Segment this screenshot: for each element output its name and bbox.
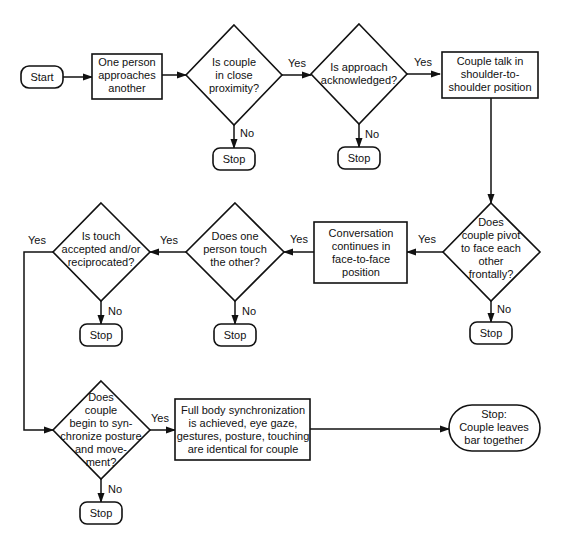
node-pivot-line1: Does <box>478 216 504 228</box>
node-end-line1: Stop: <box>481 408 507 420</box>
node-shoulder-line1: Couple talk in <box>457 55 524 67</box>
node-synchronize-line4: chronize posture <box>60 430 141 442</box>
node-face-line3: face-to-face <box>332 253 390 265</box>
node-stop2: Stop <box>338 147 380 169</box>
node-accepted-line3: reciprocated? <box>68 256 135 268</box>
label-no-pivot: No <box>497 303 511 315</box>
node-touch-line1: Does one <box>211 230 258 242</box>
label-no-accepted: No <box>108 305 122 317</box>
node-pivot: Does couple pivot to face each other fro… <box>443 203 540 301</box>
node-proximity: Is couple in close proximity? <box>186 25 282 125</box>
node-start: Start <box>21 66 63 88</box>
node-stop4-text: Stop <box>224 329 247 341</box>
node-synchronize-line1: Does <box>88 391 114 403</box>
node-end-line2: Couple leaves <box>459 421 529 433</box>
label-yes-accepted: Yes <box>28 234 46 246</box>
node-stop6-text: Stop <box>90 507 113 519</box>
node-end: Stop: Couple leaves bar together <box>449 405 540 451</box>
node-approach-line2: approaches <box>98 69 156 81</box>
node-full-sync-line2: is achieved, eye gaze, <box>189 417 298 429</box>
node-synchronize-line2: couple <box>85 404 117 416</box>
node-stop3: Stop <box>470 322 512 344</box>
node-pivot-line5: frontally? <box>469 268 514 280</box>
label-yes-proximity: Yes <box>288 57 306 69</box>
node-pivot-line4: other <box>478 255 503 267</box>
node-face: Conversation continues in face-to-face p… <box>314 222 407 283</box>
label-no-acknowledged: No <box>365 128 379 140</box>
node-stop5: Stop <box>80 324 122 346</box>
label-no-touch: No <box>242 305 256 317</box>
node-proximity-line3: proximity? <box>209 82 259 94</box>
node-start-text: Start <box>30 71 53 83</box>
node-touch: Does one person touch the other? <box>186 203 284 301</box>
node-touch-line3: the other? <box>210 256 260 268</box>
node-face-line1: Conversation <box>329 227 394 239</box>
node-shoulder: Couple talk in shoulder-to- shoulder pos… <box>442 52 538 98</box>
node-acknowledged-line2: acknowledged? <box>321 74 397 86</box>
node-full-sync-line1: Full body synchronization <box>181 404 305 416</box>
node-stop3-text: Stop <box>480 327 503 339</box>
node-approach-line1: One person <box>98 56 155 68</box>
node-face-line2: continues in <box>332 240 391 252</box>
node-proximity-line1: Is couple <box>212 56 256 68</box>
node-stop2-text: Stop <box>348 152 371 164</box>
label-no-proximity: No <box>240 127 254 139</box>
node-synchronize-line6: ment? <box>86 456 117 468</box>
node-acknowledged-line1: Is approach <box>330 61 387 73</box>
flowchart: Yes No Yes No Yes No Yes Yes No Yes No Y… <box>0 0 563 546</box>
label-yes-touch: Yes <box>160 234 178 246</box>
node-acknowledged: Is approach acknowledged? <box>311 24 407 124</box>
node-shoulder-line3: shoulder position <box>448 81 531 93</box>
node-stop1: Stop <box>213 148 255 170</box>
node-accepted: Is touch accepted and/or reciprocated? <box>53 203 150 301</box>
node-face-line4: position <box>342 266 380 278</box>
node-proximity-line2: in close <box>215 69 252 81</box>
node-pivot-line3: to face each <box>461 242 521 254</box>
node-accepted-line2: accepted and/or <box>62 243 141 255</box>
label-no-synchronize: No <box>108 483 122 495</box>
node-stop5-text: Stop <box>90 329 113 341</box>
node-approach: One person approaches another <box>92 54 162 99</box>
node-full-sync-line3: gestures, posture, touching <box>177 430 310 442</box>
node-touch-line2: person touch <box>203 243 267 255</box>
label-yes-pivot: Yes <box>418 233 436 245</box>
label-yes-face: Yes <box>290 233 308 245</box>
node-end-line3: bar together <box>464 434 524 446</box>
node-accepted-line1: Is touch <box>82 230 121 242</box>
node-pivot-line2: couple pivot <box>462 229 521 241</box>
node-stop6: Stop <box>80 502 122 524</box>
node-full-sync-line4: are identical for couple <box>188 443 299 455</box>
label-yes-acknowledged: Yes <box>414 56 432 68</box>
node-full-sync: Full body synchronization is achieved, e… <box>175 399 310 460</box>
edge-accepted-synchronize <box>24 252 53 430</box>
node-stop1-text: Stop <box>223 153 246 165</box>
node-synchronize-line5: and move- <box>75 443 127 455</box>
node-synchronize-line3: begin to syn- <box>70 417 133 429</box>
node-synchronize: Does couple begin to syn- chronize postu… <box>53 381 150 479</box>
label-yes-synchronize: Yes <box>151 412 169 424</box>
node-approach-line3: another <box>108 82 146 94</box>
node-stop4: Stop <box>214 324 256 346</box>
node-shoulder-line2: shoulder-to- <box>461 68 520 80</box>
